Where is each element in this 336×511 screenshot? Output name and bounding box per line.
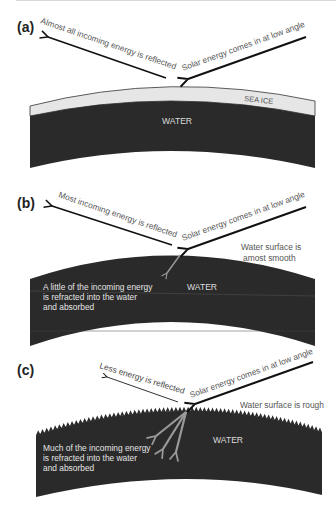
surface-note-b-line1: Water surface is	[241, 242, 301, 252]
refraction-note-c-line2: is refracted into the water	[43, 453, 137, 463]
refraction-note-b-line1: A little of the incoming energy	[43, 282, 153, 292]
incoming-text-c: Solar energy comes in at low angle	[188, 346, 314, 400]
panel-b: (b) Most incoming energy is reflected So…	[17, 189, 315, 346]
incoming-text-b: Solar energy comes in at low angle	[180, 189, 306, 243]
surface-note-c: Water surface is rough	[240, 400, 324, 410]
refraction-note-b-line2: is refracted into the water	[43, 292, 137, 302]
incoming-text-a: Solar energy comes in at low angle	[180, 19, 306, 73]
sea-ice-albedo-diagram: (a) Almost all incoming energy is reflec…	[0, 0, 336, 511]
surface-note-b-line2: amost smooth	[243, 253, 296, 263]
water-body-a	[30, 101, 315, 168]
reflected-text-a: Almost all incoming energy is reflected	[39, 15, 178, 71]
refraction-note-c-line3: and absorbed	[43, 463, 95, 473]
refraction-note-b-line3: and absorbed	[43, 302, 95, 312]
refraction-note-c-line1: Much of the incoming energy	[43, 443, 151, 453]
panel-label-c: (c)	[17, 362, 34, 378]
water-label-c: WATER	[213, 435, 243, 445]
panel-label-b: (b)	[17, 195, 35, 211]
water-label-b: WATER	[187, 282, 217, 292]
panel-label-a: (a)	[17, 19, 34, 35]
panel-a: (a) Almost all incoming energy is reflec…	[17, 15, 315, 168]
panel-c: (c) Less energy is reflected Solar energ…	[17, 346, 324, 497]
reflected-text-b: Most incoming energy is reflected	[57, 189, 179, 239]
water-label-a: WATER	[162, 116, 192, 126]
